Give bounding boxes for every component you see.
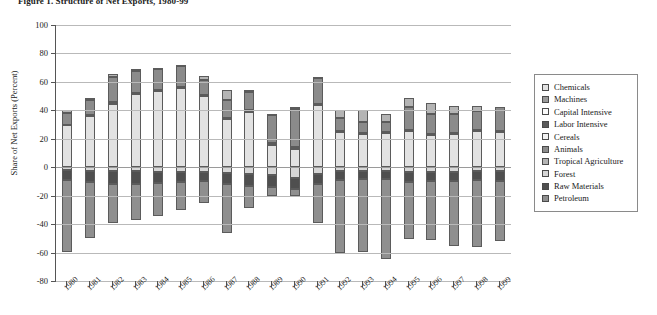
bar-segment <box>131 93 141 95</box>
bar-segment <box>335 131 345 133</box>
bar-column[interactable] <box>244 25 254 281</box>
bar-column[interactable] <box>108 25 118 281</box>
bar-column[interactable] <box>131 25 141 281</box>
bar-column[interactable] <box>62 25 72 281</box>
bar-segment <box>404 130 414 132</box>
legend-swatch-icon <box>542 121 549 128</box>
bar-segment <box>404 172 414 182</box>
gridline-100 <box>56 25 511 26</box>
legend-swatch-icon <box>542 146 549 153</box>
gridline--60 <box>56 253 511 254</box>
bar-segment <box>267 145 277 167</box>
bar-segment <box>244 174 254 187</box>
bar-column[interactable] <box>404 25 414 281</box>
bar-segment <box>290 149 300 167</box>
y-tick-label: 80 <box>40 48 49 58</box>
x-axis-labels: 1980198119821983198419851986198719881989… <box>0 286 560 315</box>
bar-segment <box>153 183 163 216</box>
bar-column[interactable] <box>267 25 277 281</box>
bar-segment <box>85 100 95 115</box>
legend-item[interactable]: Forest <box>542 168 631 180</box>
bar-segment <box>426 103 436 114</box>
y-tick-mark <box>51 196 56 197</box>
bar-column[interactable] <box>472 25 482 281</box>
bar-segment <box>62 113 72 125</box>
y-tick-label: 40 <box>40 105 49 115</box>
legend-label: Chemicals <box>554 83 590 92</box>
legend-label: Animals <box>554 145 583 154</box>
bar-segment <box>472 180 482 247</box>
bar-column[interactable] <box>199 25 209 281</box>
bar-column[interactable] <box>313 25 323 281</box>
legend-swatch-icon <box>542 170 549 177</box>
y-tick-mark <box>51 224 56 225</box>
bar-column[interactable] <box>426 25 436 281</box>
bar-segment <box>176 88 186 167</box>
bar-column[interactable] <box>153 25 163 281</box>
bar-segment <box>335 180 345 253</box>
legend-swatch-icon <box>542 84 549 91</box>
bar-segment <box>85 115 95 167</box>
legend-item[interactable]: Machines <box>542 93 631 105</box>
bar-column[interactable] <box>358 25 368 281</box>
bar-segment <box>449 181 459 246</box>
legend-item[interactable]: Tropical Agriculture <box>542 155 631 167</box>
bar-column[interactable] <box>449 25 459 281</box>
legend-item[interactable]: Labor Intensive <box>542 118 631 130</box>
legend-item[interactable]: Chemicals <box>542 81 631 93</box>
bar-segment <box>426 172 436 181</box>
bar-segment <box>244 92 254 110</box>
bar-segment <box>358 179 368 252</box>
bar-column[interactable] <box>495 25 505 281</box>
bar-column[interactable] <box>381 25 391 281</box>
bar-segment <box>495 181 505 241</box>
y-tick-label: 100 <box>35 20 48 30</box>
legend-item[interactable]: Petroleum <box>542 193 631 205</box>
bar-column[interactable] <box>176 25 186 281</box>
bar-column[interactable] <box>85 25 95 281</box>
bar-segment <box>222 100 232 118</box>
bar-segment <box>153 90 163 92</box>
bar-segment <box>313 105 323 168</box>
bar-segment <box>495 171 505 180</box>
bar-segment <box>108 77 118 102</box>
bar-segment <box>267 187 277 196</box>
bar-segment <box>199 95 209 97</box>
bar-segment <box>62 125 72 167</box>
bar-segment <box>199 76 209 80</box>
plot-area <box>55 25 510 281</box>
bar-segment <box>176 66 186 87</box>
bar-column[interactable] <box>335 25 345 281</box>
gridline--20 <box>56 196 511 197</box>
bar-column[interactable] <box>222 25 232 281</box>
chart-legend: ChemicalsMachinesCapital IntensiveLabor … <box>534 74 638 212</box>
y-tick-mark <box>51 253 56 254</box>
legend-swatch-icon <box>542 195 549 202</box>
y-tick-mark <box>51 110 56 111</box>
bar-segment <box>358 171 368 179</box>
bar-segment <box>290 189 300 196</box>
bar-segment <box>358 122 368 133</box>
bar-segment <box>131 69 141 71</box>
bar-segment <box>85 182 95 237</box>
y-tick-label: 0 <box>44 162 48 172</box>
y-tick-mark <box>51 82 56 83</box>
bar-segment <box>85 98 95 100</box>
bar-segment <box>313 184 323 224</box>
bar-segment <box>404 98 414 108</box>
legend-item[interactable]: Raw Materials <box>542 180 631 192</box>
bar-segment <box>335 132 345 168</box>
bar-segment <box>381 122 391 132</box>
bar-segment <box>222 184 232 233</box>
legend-swatch-icon <box>542 96 549 103</box>
legend-label: Labor Intensive <box>554 120 608 129</box>
legend-swatch-icon <box>542 133 549 140</box>
legend-item[interactable]: Cereals <box>542 131 631 143</box>
legend-swatch-icon <box>542 158 549 165</box>
bar-column[interactable] <box>290 25 300 281</box>
bar-segment <box>199 181 209 203</box>
legend-item[interactable]: Animals <box>542 143 631 155</box>
gridline-80 <box>56 53 511 54</box>
legend-item[interactable]: Capital Intensive <box>542 106 631 118</box>
bar-segment <box>290 109 300 147</box>
